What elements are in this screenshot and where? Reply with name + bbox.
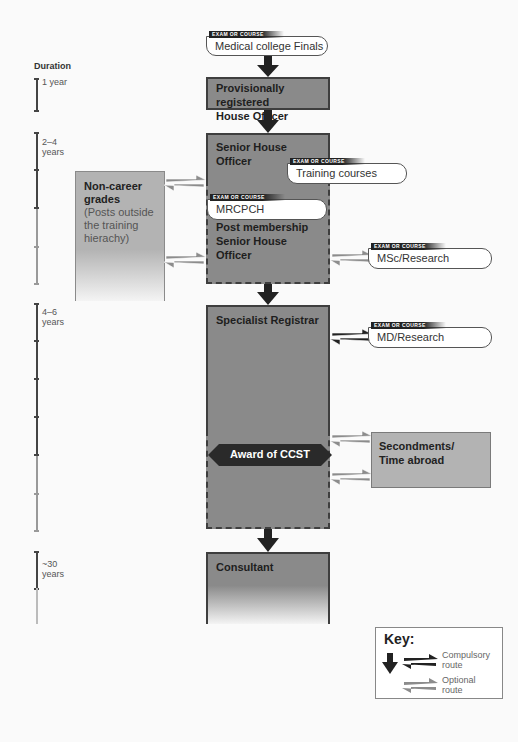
exam-training-courses: EXAM OR COURSE Training courses — [287, 163, 407, 184]
compulsory-arrow-down-icon — [257, 284, 279, 306]
duration-bracket-30-years — [36, 552, 38, 588]
non-career-grades-box: Non-career grades (Posts outside the tra… — [75, 171, 165, 301]
duration-bracket-4-6-years — [36, 304, 38, 456]
optional-route-arrows-icon — [164, 251, 206, 269]
duration-title: Duration — [34, 61, 71, 71]
exam-msc-research: EXAM OR COURSE MSc/Research — [368, 248, 492, 269]
optional-route-arrows-icon — [402, 678, 438, 694]
key-title: Key: — [384, 631, 414, 647]
optional-route-arrows-icon — [164, 174, 206, 192]
optional-route-arrows-icon — [330, 249, 372, 267]
optional-route-arrows-icon — [330, 430, 372, 448]
duration-bracket-4-6-years-extended — [36, 456, 38, 532]
stage-provisionally-registered-house-officer: Provisionally registered House Officer — [206, 77, 330, 110]
exam-md-research: EXAM OR COURSE MD/Research — [368, 327, 492, 348]
key-label-optional: Optional route — [442, 675, 476, 695]
compulsory-arrow-down-icon — [257, 110, 279, 134]
exam-tag: EXAM OR COURSE — [209, 31, 284, 38]
duration-label-1-year: 1 year — [42, 77, 67, 87]
compulsory-route-arrows-icon — [330, 328, 372, 346]
legend-key: Key: Compulsory route Optional route — [375, 627, 503, 699]
key-label-compulsory: Compulsory route — [442, 650, 490, 670]
duration-label-4-6-years: 4–6 years — [42, 307, 64, 327]
exam-mrcpch: EXAM OR COURSE MRCPCH — [207, 199, 327, 220]
secondments-time-abroad-box: Secondments/ Time abroad — [371, 432, 491, 488]
stage-consultant: Consultant — [206, 552, 330, 624]
compulsory-arrow-down-icon — [257, 529, 279, 553]
compulsory-arrow-down-icon — [382, 653, 398, 675]
duration-bracket-30-years-extended — [36, 588, 38, 624]
stage-specialist-registrar: Specialist Registrar — [206, 305, 330, 435]
compulsory-arrow-down-icon — [257, 56, 279, 78]
duration-bracket-2-4-years-extended — [36, 209, 38, 285]
duration-bracket-2-4-years — [36, 133, 38, 209]
compulsory-route-arrows-icon — [402, 654, 438, 670]
award-of-ccst-banner: Award of CCST — [208, 444, 332, 466]
duration-bracket-1-year — [36, 79, 38, 112]
optional-route-arrows-icon — [330, 468, 372, 486]
exam-medical-college-finals: EXAM OR COURSE Medical college Finals — [206, 36, 328, 56]
duration-label-30-years: ~30 years — [42, 559, 64, 579]
duration-label-2-4-years: 2–4 years — [42, 137, 64, 157]
